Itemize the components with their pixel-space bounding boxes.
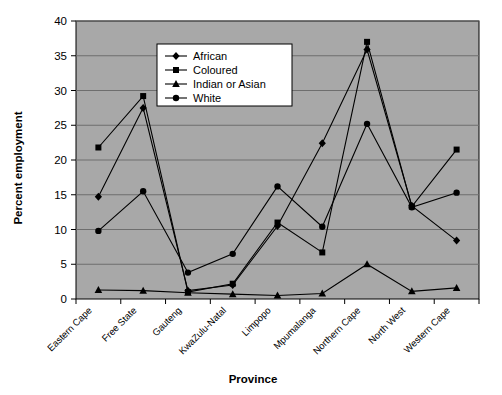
data-point	[95, 144, 101, 150]
y-axis-title: Percent employment	[12, 111, 24, 224]
data-point	[275, 220, 281, 226]
data-point	[95, 228, 101, 234]
chart-legend: AfricanColouredIndian or AsianWhite	[157, 44, 292, 106]
legend-label: African	[193, 50, 227, 62]
data-point	[319, 224, 325, 230]
data-point	[274, 183, 280, 189]
data-point	[230, 251, 236, 257]
y-tick-label: 5	[61, 258, 67, 270]
y-tick-label: 35	[54, 50, 67, 62]
legend-marker-circle	[173, 95, 179, 101]
data-point	[364, 39, 370, 45]
x-axis-title: Province	[229, 373, 278, 385]
legend-label: White	[193, 92, 221, 104]
data-point	[230, 281, 236, 287]
y-tick-label: 30	[54, 85, 67, 97]
employment-by-province-line-chart: 0510152025303540 Eastern CapeFree StateG…	[0, 0, 502, 395]
data-point	[140, 188, 146, 194]
y-tick-label: 20	[54, 154, 67, 166]
y-tick-label: 15	[54, 189, 67, 201]
data-point	[185, 269, 191, 275]
legend-marker-square	[173, 67, 179, 73]
y-tick-label: 40	[54, 15, 67, 27]
y-tick-label: 0	[61, 293, 67, 305]
chart-container: 0510152025303540 Eastern CapeFree StateG…	[0, 0, 502, 395]
y-tick-label: 10	[54, 224, 67, 236]
data-point	[140, 93, 146, 99]
data-point	[364, 121, 370, 127]
data-point	[319, 249, 325, 255]
legend-label: Indian or Asian	[193, 78, 266, 90]
legend-label: Coloured	[193, 64, 238, 76]
data-point	[454, 147, 460, 153]
data-point	[453, 189, 459, 195]
data-point	[409, 204, 415, 210]
y-tick-label: 25	[54, 119, 67, 131]
